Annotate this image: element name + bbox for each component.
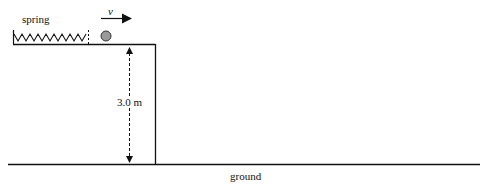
height-arrow-down-icon [126, 156, 133, 163]
ball [101, 31, 111, 41]
spring-launch-diagram: spring v 3.0 m ground [0, 0, 490, 186]
velocity-arrow-head-icon [122, 14, 132, 24]
ground-label: ground [230, 170, 261, 182]
spring-coil [14, 34, 86, 41]
velocity-label: v [108, 5, 113, 17]
spring-label: spring [22, 13, 50, 25]
diagram-graphics [0, 0, 490, 186]
height-label: 3.0 m [116, 96, 143, 108]
height-arrow-up-icon [126, 47, 133, 54]
